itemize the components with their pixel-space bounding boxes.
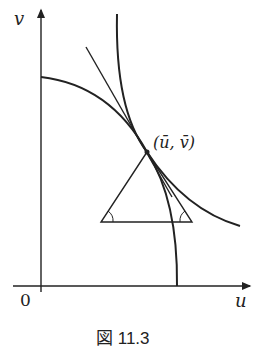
tangent-line xyxy=(86,47,172,197)
angle-arc-left xyxy=(108,211,113,222)
origin-label: 0 xyxy=(20,290,31,310)
triangle xyxy=(101,152,192,222)
concave-curve xyxy=(41,77,240,226)
figure-caption: 図 11.3 xyxy=(96,324,150,349)
y-axis-label: v xyxy=(14,8,24,29)
diagram-canvas xyxy=(0,0,261,353)
x-axis-label: u xyxy=(235,290,247,311)
angle-arc-right xyxy=(180,211,185,222)
point-label: (ū, v̄) xyxy=(153,133,195,152)
